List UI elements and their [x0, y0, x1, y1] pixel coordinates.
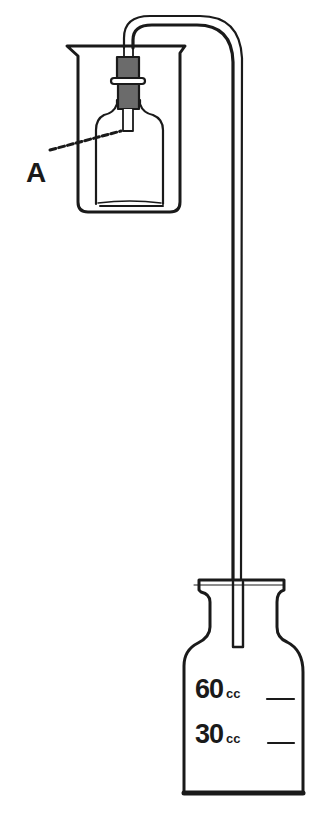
graduation-value: 60 — [195, 674, 223, 704]
apparatus-drawing — [0, 0, 319, 825]
graduation-30cc: 30cc — [195, 721, 241, 748]
apparatus-diagram: A 60cc 30cc — [0, 0, 319, 825]
siphon-tube — [124, 16, 242, 580]
graduation-unit: cc — [226, 686, 240, 701]
inner-tube-A — [50, 109, 133, 150]
graduation-60cc: 60cc — [195, 676, 241, 703]
label-a: A — [26, 159, 46, 187]
graduation-value: 30 — [195, 719, 223, 749]
graduation-unit: cc — [226, 731, 240, 746]
